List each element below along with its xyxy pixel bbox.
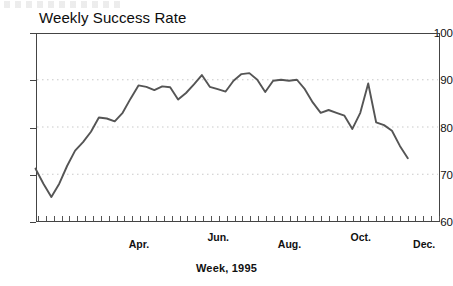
x-tick-mark [211, 216, 212, 221]
x-tick-mark [85, 216, 86, 221]
x-tick-mark [250, 216, 251, 221]
x-tick-mark [376, 216, 377, 221]
x-tick-mark [408, 216, 409, 221]
x-tick-mark [439, 216, 440, 221]
x-tick-mark [140, 216, 141, 221]
chart-title: Weekly Success Rate [39, 9, 187, 26]
x-tick-mark [297, 216, 298, 221]
x-tick-mark [109, 216, 110, 221]
x-tick-mark [227, 216, 228, 221]
gridlines [37, 80, 438, 175]
x-tick-mark [415, 216, 416, 221]
x-tick-mark [305, 216, 306, 221]
x-tick-mark [54, 216, 55, 221]
x-minor-ticks [37, 215, 439, 221]
x-tick-mark [337, 216, 338, 221]
x-tick-mark [368, 216, 369, 221]
x-tick-mark [235, 216, 236, 221]
x-tick-mark [195, 216, 196, 221]
x-tick-mark [38, 216, 39, 221]
x-tick-mark [400, 216, 401, 221]
scan-artifact-band [4, 1, 122, 8]
weekly-success-rate-chart: Weekly Success Rate 60708090100 Apr.Jun.… [0, 0, 453, 286]
x-tick-mark [360, 216, 361, 221]
x-tick-mark [274, 216, 275, 221]
y-tick-mark [30, 222, 36, 223]
plot-area [36, 33, 440, 222]
data-line-svg [37, 34, 438, 220]
x-tick-mark [329, 216, 330, 221]
x-tick-mark [124, 216, 125, 221]
x-tick-mark [321, 216, 322, 221]
x-tick-mark [203, 216, 204, 221]
x-tick-mark [93, 216, 94, 221]
x-tick-mark [180, 216, 181, 221]
x-tick-mark [345, 216, 346, 221]
x-tick-mark [46, 216, 47, 221]
x-tick-mark [187, 216, 188, 221]
x-tick-mark [266, 216, 267, 221]
x-tick-label: Jun. [207, 231, 229, 243]
x-tick-mark [392, 216, 393, 221]
x-axis-title: Week, 1995 [0, 262, 453, 274]
x-tick-label: Oct. [351, 231, 371, 243]
x-tick-mark [164, 216, 165, 221]
x-tick-mark [353, 216, 354, 221]
x-tick-mark [69, 216, 70, 221]
x-tick-mark [62, 216, 63, 221]
x-tick-mark [384, 216, 385, 221]
x-tick-label: Aug. [278, 238, 301, 250]
x-tick-mark [258, 216, 259, 221]
x-tick-mark [313, 216, 314, 221]
x-tick-mark [290, 216, 291, 221]
x-tick-mark [101, 216, 102, 221]
data-series-line [36, 73, 408, 197]
x-tick-mark [77, 216, 78, 221]
x-tick-label: Apr. [129, 238, 149, 250]
x-tick-mark [242, 216, 243, 221]
x-tick-mark [172, 216, 173, 221]
x-tick-label: Dec. [413, 238, 435, 250]
x-tick-mark [156, 216, 157, 221]
x-tick-mark [132, 216, 133, 221]
x-tick-mark [219, 216, 220, 221]
x-tick-mark [282, 216, 283, 221]
x-tick-mark [117, 216, 118, 221]
x-tick-mark [423, 216, 424, 221]
x-tick-mark [148, 216, 149, 221]
x-tick-mark [431, 216, 432, 221]
